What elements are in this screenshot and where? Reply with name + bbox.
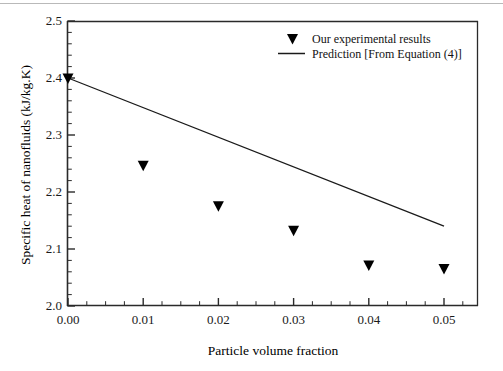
data-point-marker xyxy=(288,226,299,237)
prediction-line-series xyxy=(68,78,444,226)
x-tick-label: 0.03 xyxy=(282,312,305,328)
data-point-marker xyxy=(63,74,74,85)
x-tick-label: 0.01 xyxy=(132,312,155,328)
x-tick-label: 0.04 xyxy=(357,312,380,328)
y-axis-major-ticks xyxy=(68,21,76,306)
triangle-down-icon xyxy=(287,34,298,45)
experimental-data-markers xyxy=(63,74,450,275)
data-point-marker xyxy=(363,261,374,272)
y-tick-label: 2.3 xyxy=(34,127,62,143)
x-axis-title: Particle volume fraction xyxy=(208,343,338,359)
y-tick-label: 2.4 xyxy=(34,70,62,86)
y-axis-title: Specific heat of nanofluids (kJ/kg.K) xyxy=(18,65,34,265)
data-point-marker xyxy=(439,264,450,275)
legend-marker-samples xyxy=(278,34,305,54)
legend-entry-label-experimental: Our experimental results xyxy=(312,32,431,47)
legend-entry-label-prediction: Prediction [From Equation (4)] xyxy=(312,47,462,62)
axis-frame xyxy=(67,21,478,306)
x-tick-label: 0.00 xyxy=(57,312,80,328)
y-tick-label: 2.5 xyxy=(34,13,62,29)
x-tick-label: 0.05 xyxy=(433,312,456,328)
data-point-marker xyxy=(138,161,149,172)
y-tick-label: 2.2 xyxy=(34,184,62,200)
figure-canvas: 2.0 2.1 2.2 2.3 2.4 2.5 0.00 0.01 0.02 0… xyxy=(0,0,503,371)
data-point-marker xyxy=(213,201,224,212)
x-tick-label: 0.02 xyxy=(207,312,230,328)
y-tick-label: 2.1 xyxy=(34,241,62,257)
